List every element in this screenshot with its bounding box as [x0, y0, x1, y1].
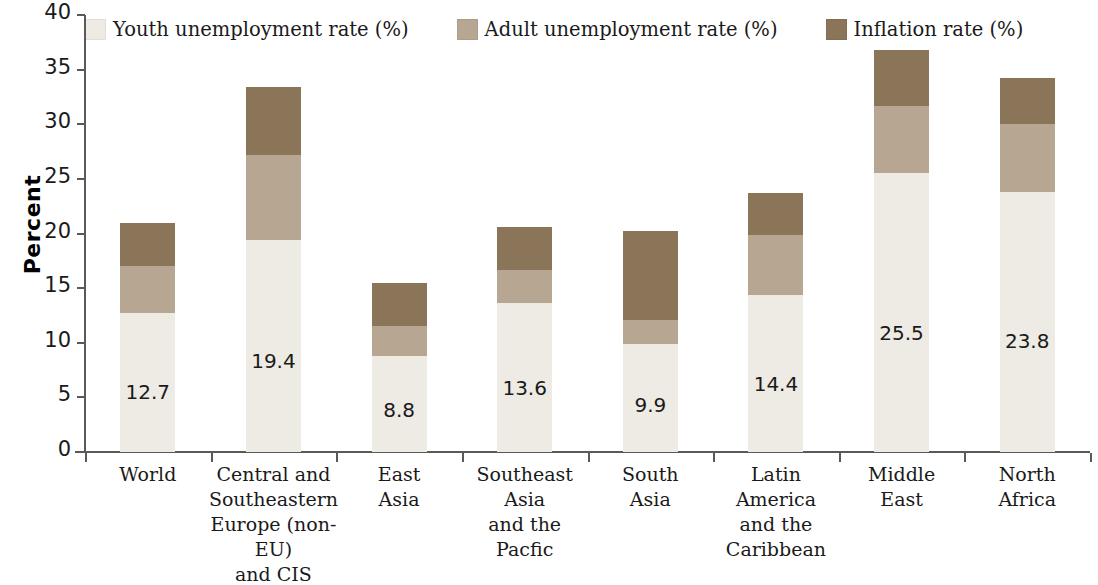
bar-segment-inflation[interactable] — [748, 193, 803, 235]
category-label-line: and the — [444, 512, 606, 537]
bar-segment-adult[interactable] — [874, 106, 929, 174]
bar-segment-youth[interactable] — [246, 240, 301, 452]
bar-segment-adult[interactable] — [497, 270, 552, 304]
x-axis-tick-mark — [713, 453, 715, 462]
x-axis-tick-mark — [336, 453, 338, 462]
x-axis-tick-mark — [211, 453, 213, 462]
bar-segment-youth[interactable] — [874, 173, 929, 452]
x-axis-tick-mark — [964, 453, 966, 462]
x-axis-category-label: NorthAfrica — [946, 462, 1098, 512]
stacked-bar[interactable]: 25.5 — [874, 50, 929, 452]
category-label-line: and the — [695, 512, 857, 537]
bar-segment-adult[interactable] — [1000, 124, 1055, 192]
bar-segment-inflation[interactable] — [1000, 78, 1055, 124]
x-axis-tick-mark — [839, 453, 841, 462]
x-axis-tick-mark — [588, 453, 590, 462]
bar-segment-adult[interactable] — [246, 155, 301, 240]
bar-segment-inflation[interactable] — [120, 223, 175, 267]
bar-segment-adult[interactable] — [120, 266, 175, 313]
stacked-bar[interactable]: 14.4 — [748, 193, 803, 452]
bar-value-label: 13.6 — [502, 376, 547, 400]
bar-value-label: 14.4 — [754, 372, 799, 396]
bar-value-label: 19.4 — [251, 349, 296, 373]
category-label-line: Africa — [946, 487, 1098, 512]
x-axis-tick-mark — [1090, 453, 1092, 462]
bar-value-label: 9.9 — [634, 393, 666, 417]
bar-segment-adult[interactable] — [372, 326, 427, 355]
category-label-line: and CIS — [193, 562, 355, 585]
bar-segment-youth[interactable] — [1000, 192, 1055, 452]
category-label-line: Caribbean — [695, 537, 857, 562]
bar-value-label: 23.8 — [1005, 329, 1050, 353]
bar-segment-inflation[interactable] — [372, 283, 427, 327]
plot-area: 12.719.48.813.69.914.425.523.8 — [0, 0, 1098, 452]
stacked-bar[interactable]: 13.6 — [497, 227, 552, 452]
bar-segment-inflation[interactable] — [246, 87, 301, 155]
category-label-line: North — [946, 462, 1098, 487]
x-axis-tick-mark — [462, 453, 464, 462]
category-label-line: Pacfic — [444, 537, 606, 562]
bar-value-label: 12.7 — [126, 380, 171, 404]
stacked-bar[interactable]: 8.8 — [372, 283, 427, 452]
stacked-bar[interactable]: 9.9 — [623, 231, 678, 452]
stacked-bar[interactable]: 19.4 — [246, 87, 301, 452]
bar-segment-inflation[interactable] — [497, 227, 552, 270]
bar-segment-inflation[interactable] — [623, 231, 678, 319]
bar-segment-adult[interactable] — [748, 235, 803, 295]
stacked-bar[interactable]: 23.8 — [1000, 78, 1055, 452]
x-axis-tick-mark — [85, 453, 87, 462]
bar-segment-adult[interactable] — [623, 320, 678, 344]
bar-value-label: 8.8 — [383, 398, 415, 422]
bar-value-label: 25.5 — [879, 321, 924, 345]
bar-segment-inflation[interactable] — [874, 50, 929, 106]
stacked-bar[interactable]: 12.7 — [120, 223, 175, 452]
category-label-line: Europe (non-EU) — [193, 512, 355, 562]
